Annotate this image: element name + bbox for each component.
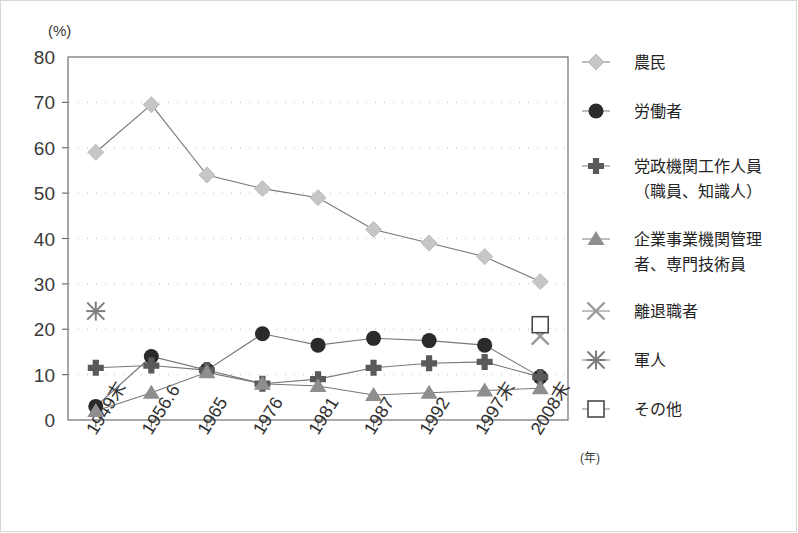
y-axis-tick-label: 60 — [34, 138, 55, 159]
circle-marker-icon — [589, 104, 604, 119]
y-axis-tick-label: 0 — [44, 410, 55, 431]
x-axis-unit-label: (年) — [580, 451, 600, 465]
series-7-markers — [532, 317, 548, 333]
circle-marker-icon — [422, 333, 437, 348]
legend-entry-2[interactable]: 労働者 — [582, 103, 682, 120]
diamond-marker-icon — [588, 54, 604, 70]
legend-label: 離退職者 — [634, 303, 698, 320]
y-axis-tick-label: 10 — [34, 365, 55, 386]
chart-canvas: 01020304050607080(%)1949末1956.6196519761… — [0, 0, 798, 533]
circle-marker-icon — [255, 326, 270, 341]
legend-label: （職員、知識人） — [634, 183, 762, 200]
series-6-markers — [86, 302, 105, 321]
legend-label: 労働者 — [634, 103, 682, 120]
y-axis-tick-label: 80 — [34, 47, 55, 68]
y-axis-tick-label: 20 — [34, 319, 55, 340]
legend-label: 者、専門技術員 — [634, 256, 746, 273]
plus-marker-icon — [588, 158, 604, 174]
circle-marker-icon — [366, 331, 381, 346]
circle-marker-icon — [311, 338, 326, 353]
legend-label: 党政機関工作人員 — [634, 158, 762, 175]
line-chart: 01020304050607080(%)1949末1956.6196519761… — [0, 0, 798, 533]
y-axis-tick-label: 50 — [34, 183, 55, 204]
legend-label: 軍人 — [634, 352, 666, 369]
y-axis-tick-label: 30 — [34, 274, 55, 295]
square-marker-icon — [532, 317, 548, 333]
legend-entry-6[interactable]: 軍人 — [582, 351, 666, 370]
circle-marker-icon — [477, 338, 492, 353]
y-axis-tick-label: 40 — [34, 229, 55, 250]
legend-label: 農民 — [634, 54, 666, 71]
legend-entry-3[interactable]: 党政機関工作人員（職員、知識人） — [582, 158, 762, 200]
y-axis-tick-label: 70 — [34, 92, 55, 113]
legend-label: 企業事業機関管理 — [634, 231, 762, 248]
legend-entry-7[interactable]: その他 — [582, 401, 682, 418]
triangle-marker-icon — [588, 231, 605, 245]
legend-entry-5[interactable]: 離退職者 — [582, 303, 698, 321]
legend-label: その他 — [634, 401, 682, 418]
legend-entry-1[interactable]: 農民 — [582, 54, 666, 71]
y-axis-unit-label: (%) — [48, 22, 71, 39]
square-marker-icon — [588, 401, 604, 417]
legend-entry-4[interactable]: 企業事業機関管理者、専門技術員 — [582, 231, 762, 273]
